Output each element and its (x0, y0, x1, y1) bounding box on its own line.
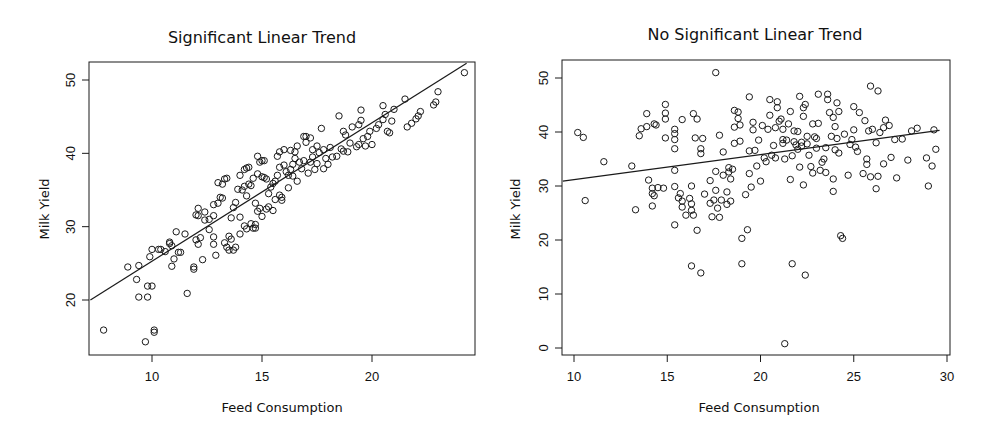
data-point (243, 193, 249, 199)
data-point (739, 235, 745, 241)
data-point (804, 141, 810, 147)
data-point (841, 131, 847, 137)
data-point (100, 327, 106, 333)
data-point (789, 153, 795, 159)
data-point (892, 136, 898, 142)
data-point (716, 132, 722, 138)
data-point (171, 256, 177, 262)
data-point (737, 122, 743, 128)
x-axis-label: Feed Consumption (698, 400, 819, 415)
data-point (270, 207, 276, 213)
panel-significant-trend: Significant Linear Trend 101520 20304050… (37, 28, 475, 415)
data-point (389, 118, 395, 124)
plot-frame (562, 60, 950, 355)
data-point (720, 149, 726, 155)
data-point (755, 137, 761, 143)
y-tick-label: 40 (536, 125, 551, 139)
data-point (867, 83, 873, 89)
data-point (830, 176, 836, 182)
data-point (763, 159, 769, 165)
data-point (142, 339, 148, 345)
data-point (731, 107, 737, 113)
data-point (285, 185, 291, 191)
data-point (147, 254, 153, 260)
data-point (923, 155, 929, 161)
data-point (287, 147, 293, 153)
y-tick-label: 30 (536, 179, 551, 193)
data-point (296, 159, 302, 165)
data-point (862, 117, 868, 123)
data-point (632, 207, 638, 213)
data-point (873, 140, 879, 146)
data-point (761, 155, 767, 161)
y-axis-label: Milk Yield (37, 178, 52, 239)
data-point (851, 103, 857, 109)
data-point (169, 263, 175, 269)
data-point (698, 270, 704, 276)
x-tick-label: 25 (847, 369, 861, 384)
data-point (823, 169, 829, 175)
data-point (714, 205, 720, 211)
x-axis: 1015202530 (567, 355, 954, 384)
data-point (808, 163, 814, 169)
data-point (718, 197, 724, 203)
data-point (213, 252, 219, 258)
data-point (629, 163, 635, 169)
data-point (770, 142, 776, 148)
data-point (830, 188, 836, 194)
panel-no-significant-trend: No Significant Linear Trend 1015202530 0… (508, 25, 954, 415)
data-point (601, 159, 607, 165)
data-point (215, 179, 221, 185)
y-tick-label: 10 (536, 287, 551, 301)
data-point (202, 209, 208, 215)
data-point (237, 214, 243, 220)
data-point (789, 261, 795, 267)
data-point (875, 88, 881, 94)
data-point (662, 101, 668, 107)
data-point (836, 108, 842, 114)
data-point (804, 133, 810, 139)
data-point (875, 173, 881, 179)
data-point (865, 128, 871, 134)
data-point (735, 115, 741, 121)
data-point (294, 143, 300, 149)
data-point (336, 113, 342, 119)
data-point (694, 227, 700, 233)
data-point (662, 116, 668, 122)
data-point (149, 283, 155, 289)
data-point (845, 172, 851, 178)
data-point (750, 119, 756, 125)
data-point (737, 138, 743, 144)
data-point (767, 112, 773, 118)
data-point (248, 182, 254, 188)
data-point (309, 146, 315, 152)
data-point (636, 133, 642, 139)
data-point (851, 127, 857, 133)
data-point (380, 102, 386, 108)
x-axis-label: Feed Consumption (221, 400, 342, 415)
y-tick-label: 20 (63, 293, 78, 307)
data-point (404, 124, 410, 130)
data-point (802, 272, 808, 278)
x-tick-label: 10 (145, 369, 159, 384)
y-axis: 20304050 (63, 73, 89, 307)
data-point (785, 121, 791, 127)
data-point (320, 166, 326, 172)
data-point (644, 123, 650, 129)
chart-title: No Significant Linear Trend (648, 25, 863, 44)
data-point (369, 141, 375, 147)
data-point (713, 168, 719, 174)
data-point (880, 161, 886, 167)
data-point (795, 128, 801, 134)
regression-line (563, 130, 940, 181)
data-point (210, 212, 216, 218)
data-point (699, 135, 705, 141)
data-point (796, 93, 802, 99)
data-point (305, 170, 311, 176)
data-point (679, 116, 685, 122)
data-point (746, 170, 752, 176)
figure: Significant Linear Trend 101520 20304050… (0, 0, 983, 434)
y-tick-label: 20 (536, 233, 551, 247)
data-point (869, 126, 875, 132)
data-point (787, 108, 793, 114)
